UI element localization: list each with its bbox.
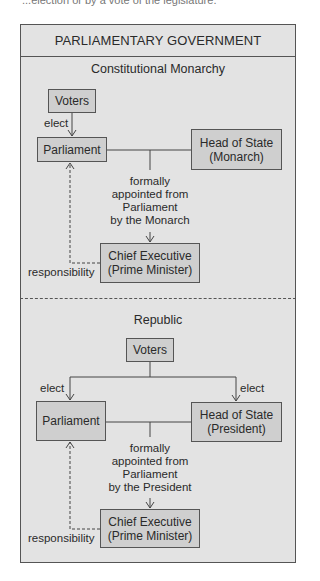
appoint-line-4: by the President (100, 481, 200, 494)
republic-elect-left-label: elect (40, 382, 64, 395)
appoint-line-4: by the Monarch (100, 214, 200, 227)
chief-executive-role: (Prime Minister) (108, 529, 193, 543)
republic-responsibility-label: responsibility (28, 532, 94, 545)
appoint-line-1: formally (100, 442, 200, 455)
head-of-state-label: Head of State (200, 408, 273, 422)
monarchy-voters-box: Voters (48, 89, 96, 113)
republic-appoint-note: formally appointed from Parliament by th… (100, 442, 200, 494)
appoint-line-3: Parliament (100, 201, 200, 214)
parliament-label: Parliament (42, 414, 99, 428)
cut-off-caption: ...election or by a vote of the legislat… (22, 0, 216, 6)
chief-executive-role: (Prime Minister) (108, 263, 193, 277)
appoint-line-2: appointed from (100, 188, 200, 201)
chief-executive-label: Chief Executive (108, 249, 191, 263)
parliament-label: Parliament (43, 143, 100, 157)
voters-label: Voters (133, 343, 167, 357)
monarchy-parliament-box: Parliament (37, 137, 107, 162)
republic-voters-box: Voters (126, 338, 174, 362)
head-of-state-role: (President) (207, 422, 266, 436)
republic-parliament-box: Parliament (36, 401, 106, 441)
monarchy-head-of-state-box: Head of State (Monarch) (191, 129, 282, 170)
monarchy-heading: Constitutional Monarchy (20, 62, 296, 76)
republic-heading: Republic (20, 313, 296, 327)
head-of-state-label: Head of State (200, 136, 273, 150)
appoint-line-2: appointed from (100, 455, 200, 468)
appoint-line-3: Parliament (100, 468, 200, 481)
monarchy-responsibility-label: responsibility (28, 266, 94, 279)
diagram-title: PARLIAMENTARY GOVERNMENT (21, 25, 295, 57)
republic-head-of-state-box: Head of State (President) (191, 402, 282, 442)
monarchy-chief-executive-box: Chief Executive (Prime Minister) (100, 243, 200, 283)
republic-elect-right-label: elect (240, 382, 264, 395)
chief-executive-label: Chief Executive (108, 515, 191, 529)
head-of-state-role: (Monarch) (209, 150, 264, 164)
republic-chief-executive-box: Chief Executive (Prime Minister) (100, 509, 200, 548)
monarchy-elect-label: elect (44, 117, 68, 130)
section-divider (20, 298, 296, 299)
voters-label: Voters (55, 94, 89, 108)
appoint-line-1: formally (100, 175, 200, 188)
monarchy-appoint-note: formally appointed from Parliament by th… (100, 175, 200, 227)
